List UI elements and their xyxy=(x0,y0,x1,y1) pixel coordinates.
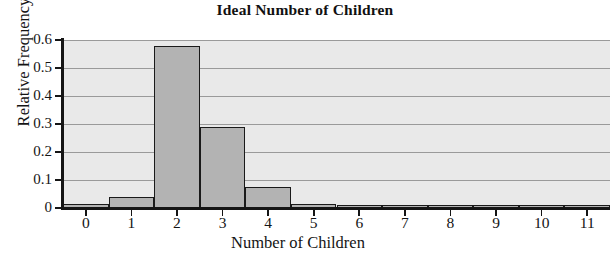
histogram-bar xyxy=(200,127,246,208)
x-axis-tick-label: 11 xyxy=(572,214,602,232)
y-axis-tick-label: 0 xyxy=(4,199,52,216)
x-axis-tick-label: 6 xyxy=(344,214,374,232)
x-axis-tick-label: 4 xyxy=(253,214,283,232)
x-axis-tick-label: 3 xyxy=(208,214,238,232)
histogram-bar xyxy=(154,46,200,208)
y-axis-tick-label: 0.3 xyxy=(4,115,52,132)
gridline xyxy=(63,68,610,69)
y-axis-tick xyxy=(55,123,63,125)
plot-area xyxy=(63,40,610,208)
y-axis-tick-label: 0.6 xyxy=(4,31,52,48)
chart-title: Ideal Number of Children xyxy=(0,1,610,19)
gridline xyxy=(63,96,610,97)
gridline xyxy=(63,180,610,181)
x-axis-tick-label: 1 xyxy=(116,214,146,232)
y-axis-tick-label: 0.4 xyxy=(4,87,52,104)
x-axis-spine xyxy=(61,207,610,210)
x-axis-tick-label: 5 xyxy=(299,214,329,232)
gridline xyxy=(63,40,610,41)
y-axis-tick-label: 0.2 xyxy=(4,143,52,160)
y-axis-tick xyxy=(55,39,63,41)
x-axis-tick-label: 10 xyxy=(527,214,557,232)
x-axis-tick-label: 9 xyxy=(481,214,511,232)
y-axis-tick xyxy=(55,179,63,181)
y-axis-tick xyxy=(55,207,63,209)
y-axis-tick xyxy=(55,151,63,153)
histogram-figure: ) Ideal Number of Children Relative Freq… xyxy=(0,0,610,258)
x-axis-title: Number of Children xyxy=(63,233,533,253)
y-axis-tick xyxy=(55,95,63,97)
y-axis-tick-label: 0.1 xyxy=(4,171,52,188)
x-axis-tick-label: 2 xyxy=(162,214,192,232)
x-axis-tick-label: 0 xyxy=(71,214,101,232)
gridline xyxy=(63,152,610,153)
x-axis-tick-label: 8 xyxy=(435,214,465,232)
x-axis-tick-label: 7 xyxy=(390,214,420,232)
histogram-bar xyxy=(245,187,291,208)
y-axis-tick xyxy=(55,67,63,69)
gridline xyxy=(63,124,610,125)
y-axis-tick-label: 0.5 xyxy=(4,59,52,76)
